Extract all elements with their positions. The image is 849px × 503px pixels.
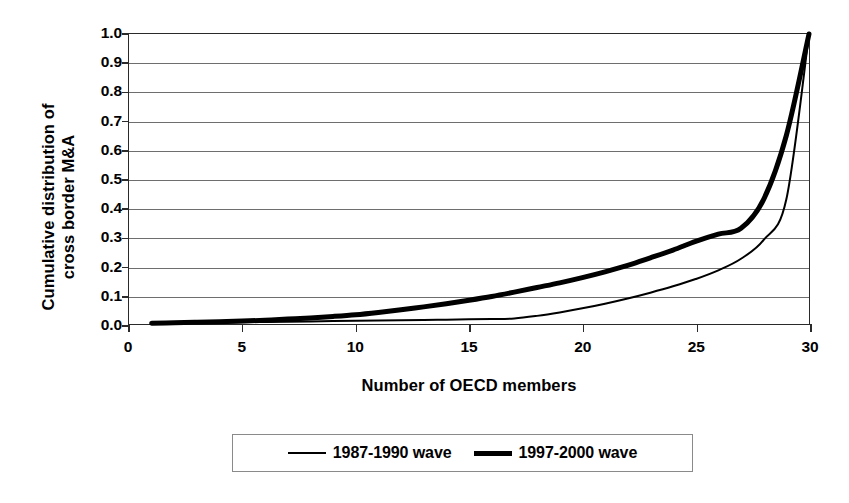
y-axis-tick-mark [122, 208, 129, 210]
y-axis-tick-label: 0.4 [72, 199, 122, 217]
chart-legend: 1987-1990 wave1997-2000 wave [232, 434, 693, 472]
y-axis-tick-label: 0.3 [72, 228, 122, 246]
x-axis-tick-label: 5 [212, 338, 272, 356]
y-axis-tick-mark [122, 179, 129, 181]
x-axis-tick-label: 0 [98, 338, 158, 356]
chart-figure: Cumulative distribution of cross border … [0, 0, 849, 503]
y-axis-tick-label: 0.6 [72, 141, 122, 159]
x-axis-tick-label: 20 [553, 338, 613, 356]
x-axis-title: Number of OECD members [128, 376, 810, 395]
plot-area [128, 33, 810, 325]
y-axis-tick-labels: 0.00.10.20.30.40.50.60.70.80.91.0 [72, 33, 122, 325]
x-axis-tick-mark [697, 324, 699, 332]
y-axis-tick-mark [122, 238, 129, 240]
y-axis-tick-mark [122, 92, 129, 94]
legend-line-swatch-icon [474, 451, 512, 456]
chart-series-svg [129, 34, 809, 324]
y-axis-tick-mark [122, 62, 129, 64]
legend-line-swatch-icon [288, 452, 326, 454]
x-axis-tick-mark [810, 324, 812, 332]
x-axis-tick-label: 10 [325, 338, 385, 356]
x-axis-tick-labels: 051015202530 [128, 338, 810, 364]
x-axis-tick-label: 15 [439, 338, 499, 356]
y-axis-tick-mark [122, 267, 129, 269]
y-axis-tick-label: 0.1 [72, 287, 122, 305]
y-axis-tick-mark [122, 33, 129, 35]
x-axis-tick-label: 25 [666, 338, 726, 356]
series-line-thin [152, 34, 809, 323]
y-axis-tick-mark [122, 150, 129, 152]
y-axis-tick-label: 0.5 [72, 170, 122, 188]
y-axis-tick-mark [122, 296, 129, 298]
x-axis-tick-mark [356, 324, 358, 332]
x-axis-tick-mark [583, 324, 585, 332]
x-axis-tick-label: 30 [780, 338, 840, 356]
series-line-thick [152, 34, 809, 323]
y-axis-tick-label: 0.7 [72, 112, 122, 130]
legend-entry[interactable]: 1987-1990 wave [288, 444, 452, 462]
y-axis-tick-label: 0.9 [72, 53, 122, 71]
y-axis-tick-label: 1.0 [72, 24, 122, 42]
legend-entry[interactable]: 1997-2000 wave [474, 444, 638, 462]
x-axis-tick-mark [242, 324, 244, 332]
x-axis-tick-mark [469, 324, 471, 332]
x-axis-tick-mark [128, 324, 130, 332]
y-axis-tick-mark [122, 121, 129, 123]
legend-label: 1997-2000 wave [519, 444, 638, 462]
y-axis-tick-label: 0.0 [72, 316, 122, 334]
y-axis-tick-label: 0.2 [72, 258, 122, 276]
legend-label: 1987-1990 wave [333, 444, 452, 462]
y-axis-tick-label: 0.8 [72, 82, 122, 100]
